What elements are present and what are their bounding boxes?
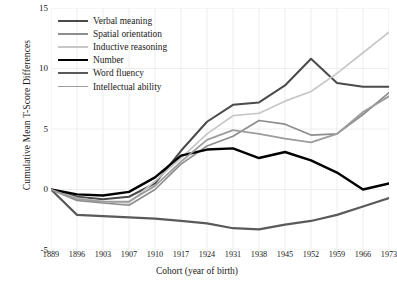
legend-label: Inductive reasoning [93, 42, 167, 52]
legend-item-spatial-orientation[interactable]: Spatial orientation [58, 27, 198, 40]
legend-label: Intellectual ability [93, 82, 161, 92]
series-line-number [51, 148, 389, 195]
x-axis-label: Cohort (year of birth) [0, 266, 394, 276]
x-tick-label: 1973 [381, 250, 397, 259]
x-tick-label: 1931 [225, 250, 241, 259]
x-tick-label: 1917 [173, 250, 189, 259]
x-tick-label: 1966 [355, 250, 371, 259]
x-tick-label: 1903 [95, 250, 111, 259]
x-tick-label: 1959 [329, 250, 345, 259]
legend-item-verbal-meaning[interactable]: Verbal meaning [58, 14, 198, 27]
legend-label: Verbal meaning [93, 16, 152, 26]
x-axis-tick-labels: 1889189619031907191019171924193119381945… [0, 250, 394, 264]
chart-legend: Verbal meaningSpatial orientationInducti… [58, 14, 198, 93]
legend-item-word-fluency[interactable]: Word fluency [58, 67, 198, 80]
x-tick-label: 1910 [147, 250, 163, 259]
x-tick-label: 1889 [43, 250, 59, 259]
legend-item-inductive-reasoning[interactable]: Inductive reasoning [58, 40, 198, 53]
legend-label: Number [93, 55, 124, 65]
legend-label: Word fluency [93, 68, 144, 78]
y-axis-tick-labels: 151050-5 [26, 0, 48, 283]
x-tick-label: 1907 [121, 250, 137, 259]
x-tick-label: 1924 [199, 250, 215, 259]
x-tick-label: 1945 [277, 250, 293, 259]
y-tick-label: 0 [26, 185, 48, 194]
x-tick-label: 1896 [69, 250, 85, 259]
y-tick-label: 5 [26, 125, 48, 134]
legend-swatch-icon [58, 33, 88, 35]
legend-swatch-icon [58, 59, 88, 61]
y-tick-label: 10 [26, 64, 48, 73]
legend-swatch-icon [58, 46, 88, 48]
x-tick-label: 1938 [251, 250, 267, 259]
legend-swatch-icon [58, 72, 88, 74]
legend-label: Spatial orientation [93, 29, 162, 39]
legend-swatch-icon [58, 20, 88, 22]
y-tick-label: 15 [26, 4, 48, 13]
legend-swatch-icon [58, 86, 88, 88]
x-tick-label: 1952 [303, 250, 319, 259]
legend-item-number[interactable]: Number [58, 54, 198, 67]
legend-item-intellectual-ability[interactable]: Intellectual ability [58, 80, 198, 93]
